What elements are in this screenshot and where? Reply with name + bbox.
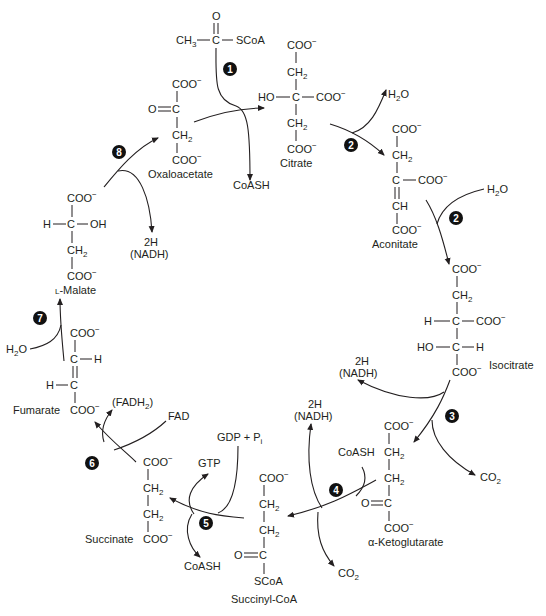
svg-text:C: C (392, 174, 400, 186)
svg-text:COO−: COO− (392, 121, 422, 135)
step-badge-5: 5 (199, 516, 213, 530)
step-badge-2a: 2 (344, 138, 358, 152)
co2-label-step3: CO2 (480, 471, 502, 486)
svg-text:COO−: COO− (287, 141, 317, 155)
svg-text:COO−: COO− (452, 261, 482, 275)
alpha-ketoglutarate-structure: COO− CH2 CH2 O C COO− α-Ketoglutarate (361, 418, 443, 548)
svg-text:COO−: COO− (172, 152, 202, 166)
step-badge-4: 4 (329, 483, 343, 497)
svg-text:CH2: CH2 (172, 129, 193, 144)
citrate-structure: COO− CH2 HO C COO− CH2 COO− Citrate (258, 37, 346, 169)
svg-text:CH2: CH2 (452, 289, 473, 304)
svg-text:CH2: CH2 (287, 66, 308, 81)
svg-text:COO−: COO− (70, 325, 100, 339)
coash-label-step5: CoASH (184, 560, 221, 572)
oxaloacetate-label: Oxaloacetate (148, 168, 213, 180)
svg-text:7: 7 (37, 313, 43, 324)
svg-text:C: C (452, 341, 460, 353)
svg-text:CH2: CH2 (259, 524, 280, 539)
succinyl-coa-label: Succinyl-CoA (231, 593, 298, 605)
svg-text:SCoA: SCoA (254, 575, 283, 587)
step-badge-1: 1 (223, 62, 237, 76)
svg-text:COO−: COO− (287, 37, 317, 51)
svg-text:CH2: CH2 (143, 482, 164, 497)
nadh-label-step4: (NADH) (294, 410, 333, 422)
coash-label-step1: CoASH (233, 179, 270, 191)
aconitate-structure: COO− CH2 C COO− CH COO− Aconitate (372, 121, 448, 250)
step-badge-6: 6 (85, 456, 99, 470)
malate-structure: COO− H C OH CH2 COO− L-Malate (43, 190, 107, 296)
svg-text:COO−: COO− (67, 268, 97, 282)
succinyl-coa-structure: COO− CH2 CH2 O C SCoA Succinyl-CoA (231, 470, 298, 605)
svg-text:SCoA: SCoA (236, 34, 265, 46)
citric-acid-cycle-diagram: O CH3 C SCoA COO− CH2 HO C COO− CH2 COO−… (0, 0, 546, 616)
svg-text:OH: OH (90, 218, 107, 230)
svg-text:COO−: COO− (384, 418, 414, 432)
step-badge-8: 8 (112, 145, 126, 159)
nadh-label-step8: (NADH) (130, 248, 169, 260)
svg-text:H: H (94, 353, 102, 365)
succinate-structure: COO− CH2 CH2 COO− Succinate (85, 454, 173, 545)
citrate-label: Citrate (280, 157, 312, 169)
fadh2-label: (FADH2) (112, 396, 153, 411)
svg-text:COO−: COO− (384, 520, 414, 534)
svg-text:C: C (172, 103, 180, 115)
svg-text:CH2: CH2 (384, 472, 405, 487)
gtp-label: GTP (198, 457, 221, 469)
svg-text:C: C (70, 353, 78, 365)
svg-text:C: C (212, 34, 220, 46)
svg-text:H: H (476, 341, 484, 353)
svg-text:COO−: COO− (316, 89, 346, 103)
svg-text:H: H (43, 218, 51, 230)
nadh-2h-label-step3: 2H (355, 355, 369, 367)
svg-text:5: 5 (203, 518, 209, 529)
svg-text:C: C (292, 91, 300, 103)
svg-text:CH2: CH2 (384, 446, 405, 461)
svg-text:COO−: COO− (392, 222, 422, 236)
svg-text:COO−: COO− (259, 470, 289, 484)
step-badge-7: 7 (33, 311, 47, 325)
svg-text:COO−: COO− (172, 76, 202, 90)
svg-text:COO−: COO− (143, 531, 173, 545)
step-badge-2b: 2 (449, 211, 463, 225)
svg-text:CH2: CH2 (287, 117, 308, 132)
svg-text:COO−: COO− (143, 454, 173, 468)
gdp-pi-label: GDP + Pi (217, 431, 263, 446)
svg-text:CH2: CH2 (392, 149, 413, 164)
svg-text:H: H (46, 379, 54, 391)
malate-label: L-Malate (55, 284, 96, 296)
svg-text:4: 4 (333, 485, 339, 496)
svg-text:COO−: COO− (452, 364, 482, 378)
svg-text:CH3: CH3 (176, 34, 197, 49)
svg-text:2: 2 (453, 213, 459, 224)
isocitrate-structure: COO− CH2 H C COO− HO C H COO− Isocitrate (417, 261, 534, 378)
svg-text:CH2: CH2 (259, 498, 280, 513)
svg-text:COO−: COO− (67, 190, 97, 204)
svg-text:O: O (361, 497, 370, 509)
nadh-label-step3: (NADH) (339, 367, 378, 379)
oxaloacetate-structure: COO− O C CH2 COO− Oxaloacetate (148, 76, 213, 180)
svg-text:CH2: CH2 (67, 244, 88, 259)
svg-text:C: C (70, 379, 78, 391)
svg-text:HO: HO (258, 91, 275, 103)
co2-label-step4: CO2 (338, 567, 360, 582)
aconitate-label: Aconitate (372, 238, 418, 250)
h2o-label-step2a: H2O (388, 88, 409, 103)
svg-text:CH: CH (392, 200, 408, 212)
svg-text:C: C (384, 497, 392, 509)
fumarate-structure: COO− C H H C COO− Fumarate (13, 325, 102, 416)
svg-text:2: 2 (348, 140, 354, 151)
isocitrate-label: Isocitrate (489, 359, 534, 371)
svg-text:3: 3 (449, 411, 455, 422)
svg-text:C: C (67, 218, 75, 230)
svg-text:CH2: CH2 (143, 508, 164, 523)
svg-text:COO−: COO− (70, 402, 100, 416)
coash-label-step4: CoASH (338, 446, 375, 458)
svg-text:C: C (452, 315, 460, 327)
h2o-label-step7: H2O (6, 343, 27, 358)
svg-text:O: O (148, 103, 157, 115)
svg-text:H: H (424, 315, 432, 327)
svg-text:6: 6 (89, 458, 95, 469)
svg-text:1: 1 (227, 64, 233, 75)
svg-text:COO−: COO− (476, 313, 506, 327)
